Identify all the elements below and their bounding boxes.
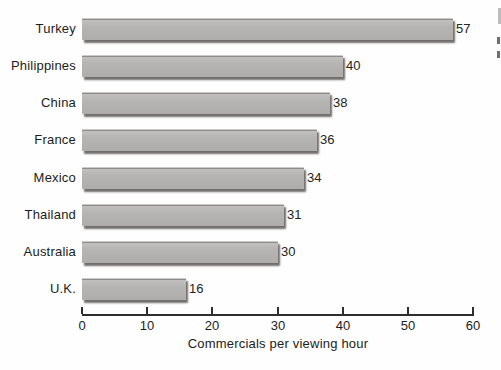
- x-tick-mark: [407, 307, 409, 314]
- value-label: 57: [456, 22, 470, 36]
- bar: [82, 92, 330, 114]
- x-tick-label: 30: [265, 318, 291, 333]
- bar: [82, 55, 343, 77]
- category-label: Philippines: [0, 59, 76, 73]
- value-label: 30: [281, 245, 295, 259]
- bar-chart-figure: Turkey57Philippines40China38France36Mexi…: [0, 0, 501, 370]
- x-tick-mark: [146, 307, 148, 314]
- category-label: France: [0, 133, 76, 147]
- category-label: Mexico: [0, 171, 76, 185]
- x-axis-title: Commercials per viewing hour: [82, 336, 474, 351]
- category-label: Australia: [0, 245, 76, 259]
- value-label: 16: [189, 282, 203, 296]
- bar: [82, 204, 284, 226]
- x-tick-mark: [211, 307, 213, 314]
- x-tick-label: 10: [134, 318, 160, 333]
- value-label: 31: [287, 208, 301, 222]
- x-tick-label: 60: [460, 318, 486, 333]
- value-label: 38: [333, 96, 347, 110]
- bar: [82, 241, 278, 263]
- x-tick-label: 50: [395, 318, 421, 333]
- x-tick-mark: [472, 307, 474, 314]
- value-label: 36: [320, 133, 334, 147]
- x-tick-mark: [342, 307, 344, 314]
- category-label: Turkey: [0, 22, 76, 36]
- x-tick-label: 0: [69, 318, 95, 333]
- value-label: 34: [307, 171, 321, 185]
- category-label: U.K.: [0, 282, 76, 296]
- bar: [82, 129, 317, 151]
- x-tick-mark: [81, 307, 83, 314]
- x-tick-label: 20: [199, 318, 225, 333]
- category-label: China: [0, 96, 76, 110]
- bar: [82, 18, 453, 40]
- x-tick-label: 40: [330, 318, 356, 333]
- value-label: 40: [346, 59, 360, 73]
- bar: [82, 167, 304, 189]
- bar: [82, 278, 186, 300]
- x-axis-line: [82, 314, 474, 316]
- x-tick-mark: [277, 307, 279, 314]
- category-label: Thailand: [0, 208, 76, 222]
